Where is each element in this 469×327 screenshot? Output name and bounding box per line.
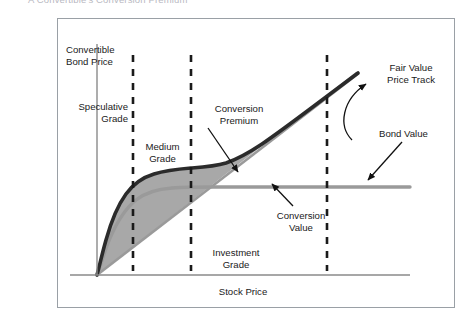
zone-label-investment-grade: Investment Grade bbox=[203, 247, 269, 270]
zone-label-medium-grade: Medium Grade bbox=[135, 141, 190, 164]
annotation-conversion-value: Conversion Value bbox=[268, 210, 334, 233]
y-axis-label: Convertible Bond Price bbox=[66, 44, 150, 67]
zone-label-speculative-grade: Speculative Grade bbox=[54, 101, 128, 124]
x-axis-label: Stock Price bbox=[198, 286, 288, 298]
fair-value-leader bbox=[344, 84, 366, 140]
bond-value-leader bbox=[368, 142, 402, 180]
annotation-conversion-premium: Conversion Premium bbox=[201, 103, 277, 126]
annotation-fair-value-price-track: Fair Value Price Track bbox=[372, 62, 450, 85]
annotation-bond-value: Bond Value bbox=[379, 128, 445, 140]
figure-root: A Convertible's Conversion Premium bbox=[0, 0, 469, 327]
